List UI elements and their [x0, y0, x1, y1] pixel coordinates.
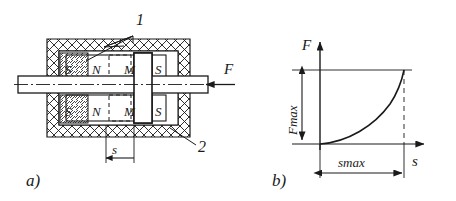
- dimension-smax: smax: [320, 144, 404, 178]
- force-label-F: F: [223, 61, 234, 77]
- pole-label-S-right-upper: S: [155, 62, 162, 77]
- curve-force-vs-stroke: [320, 70, 404, 144]
- dimension-label-fmax: Fmax: [285, 105, 300, 136]
- figure-magnetic-actuator: S N M S S N M S 1 2 F s: [0, 0, 456, 201]
- pole-label-N-lower: N: [91, 104, 102, 119]
- caption-b: b): [272, 171, 287, 190]
- dimension-fmax: Fmax: [285, 74, 302, 140]
- callout-1: 1: [136, 11, 144, 28]
- pole-label-S-right-lower: S: [155, 104, 162, 119]
- pole-label-N-upper: N: [91, 62, 102, 77]
- pole-label-M-lower: M: [123, 104, 136, 119]
- pole-label-M-upper: M: [123, 62, 136, 77]
- axis-label-F: F: [301, 37, 312, 53]
- panel-a: S N M S S N M S 1 2 F s: [14, 11, 235, 190]
- pole-label-S-left-lower: S: [65, 104, 72, 119]
- dimension-label-smax: smax: [338, 155, 365, 170]
- axis-label-s: s: [412, 153, 418, 169]
- armature-block-overlay: [134, 53, 152, 123]
- callout-2: 2: [198, 138, 206, 155]
- pole-label-S-left-upper: S: [65, 62, 72, 77]
- caption-a: a): [26, 171, 41, 190]
- panel-b: F s Fmax smax b): [272, 37, 424, 190]
- stroke-label-s: s: [112, 142, 117, 157]
